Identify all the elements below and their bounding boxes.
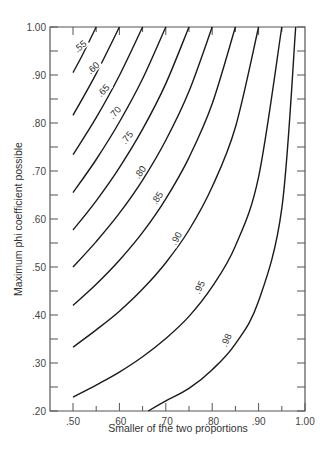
y-tick-label: .80	[32, 118, 46, 129]
x-tick-label: 1.00	[295, 416, 315, 427]
x-axis-title: Smaller of the two proportions	[108, 422, 247, 434]
plot-border	[50, 27, 305, 411]
y-tick-label: .70	[32, 166, 46, 177]
x-tick-label: .90	[252, 416, 266, 427]
y-axis-title: Maximum phi coefficient possible	[12, 142, 24, 296]
max-phi-chart: .50.60.70.80.901.00.20.30.40.50.60.70.80…	[0, 0, 327, 454]
y-tick-label: .90	[32, 70, 46, 81]
y-tick-label: 1.00	[27, 22, 47, 33]
axis-ticks: .50.60.70.80.901.00.20.30.40.50.60.70.80…	[27, 22, 316, 428]
y-tick-label: .60	[32, 214, 46, 225]
x-tick-label: .50	[66, 416, 80, 427]
y-tick-label: .20	[32, 406, 46, 417]
y-tick-label: .40	[32, 310, 46, 321]
curve-p90	[73, 27, 259, 347]
plot-frame	[50, 27, 305, 411]
y-tick-label: .50	[32, 262, 46, 273]
y-tick-label: .30	[32, 358, 46, 369]
